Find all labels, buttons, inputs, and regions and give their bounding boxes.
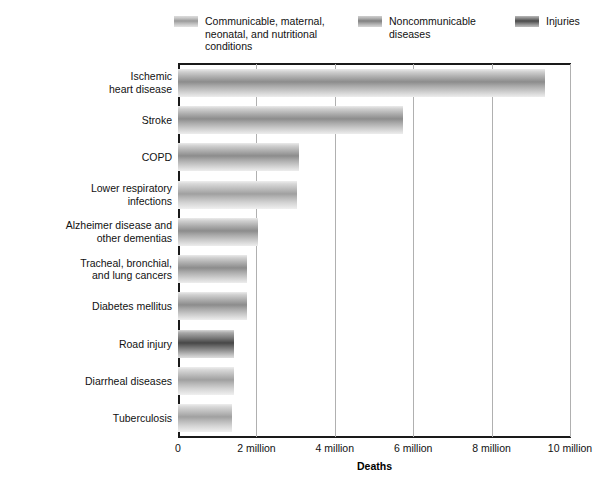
x-tick-label: 2 million bbox=[237, 442, 276, 454]
y-tick-label: Lower respiratory infections bbox=[22, 182, 172, 207]
bar bbox=[178, 106, 403, 134]
y-tick-label: Road injury bbox=[22, 338, 172, 351]
y-tick-label: Diarrheal diseases bbox=[22, 375, 172, 388]
bar bbox=[178, 367, 234, 395]
bar bbox=[178, 330, 234, 358]
y-tick-label: Tracheal, bronchial, and lung cancers bbox=[22, 257, 172, 282]
x-tick-label: 6 million bbox=[394, 442, 433, 454]
y-tick-label: Alzheimer disease and other dementias bbox=[22, 219, 172, 244]
x-tick-label: 10 million bbox=[548, 442, 592, 454]
bar bbox=[178, 69, 545, 97]
bar-chart: Ischemic heart diseaseStrokeCOPDLower re… bbox=[0, 0, 616, 483]
bar bbox=[178, 292, 247, 320]
y-tick-label: Ischemic heart disease bbox=[22, 70, 172, 95]
y-tick-label: Diabetes mellitus bbox=[22, 300, 172, 313]
x-tick-label: 8 million bbox=[472, 442, 511, 454]
bar bbox=[178, 218, 258, 246]
gridline-5 bbox=[570, 64, 571, 437]
bar bbox=[178, 181, 297, 209]
x-axis-title: Deaths bbox=[178, 460, 571, 472]
x-tick-label: 4 million bbox=[316, 442, 355, 454]
y-tick-label: COPD bbox=[22, 151, 172, 164]
plot-area bbox=[178, 64, 570, 437]
bar bbox=[178, 404, 232, 432]
y-tick-label: Tuberculosis bbox=[22, 412, 172, 425]
bar bbox=[178, 255, 247, 283]
bar bbox=[178, 143, 299, 171]
y-tick-label: Stroke bbox=[22, 114, 172, 127]
y-axis-tick-labels: Ischemic heart diseaseStrokeCOPDLower re… bbox=[20, 0, 172, 483]
x-tick-label: 0 bbox=[175, 442, 181, 454]
